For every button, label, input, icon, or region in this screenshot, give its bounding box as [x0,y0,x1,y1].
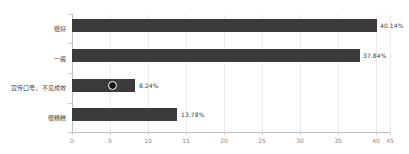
x-axis-tick [390,132,391,135]
x-axis-tick [110,132,111,135]
x-tick-label-7: 35 [327,136,349,145]
x-tick-label-3: 15 [175,136,197,145]
bar-value-0: 40.14% [380,19,403,32]
x-axis-tick [148,132,149,135]
x-tick-label-1: 5 [99,136,121,145]
x-tick-label-5: 25 [251,136,273,145]
bar-0[interactable] [72,19,377,32]
x-axis-tick [376,132,377,135]
bar-value-1: 37.84% [363,49,386,62]
x-axis-tick [262,132,263,135]
y-axis-tick [68,14,72,15]
category-label-2: 宣传口号，不见成效 [0,81,66,94]
category-label-1: 一般 [0,52,66,65]
x-tick-label-2: 10 [137,136,159,145]
x-axis-tick [186,132,187,135]
bar-value-3: 13.78% [181,108,204,121]
x-tick-label-0: 0 [61,136,83,145]
y-axis-tick [68,73,72,74]
bar-chart: 很好 一般 宣传口号，不见成效 很糟糕 40.14% 37.84% 8.24% … [0,0,409,154]
pointer-marker-icon [108,81,117,90]
category-label-3: 很糟糕 [0,111,66,124]
category-label-0: 很好 [0,22,66,35]
x-axis-line [72,132,390,133]
bar-value-2: 8.24% [139,79,159,92]
x-tick-label-9: 45 [379,136,401,145]
y-axis-tick [68,43,72,44]
x-tick-label-6: 30 [289,136,311,145]
bar-2[interactable] [72,79,135,92]
bar-1[interactable] [72,49,360,62]
y-axis-tick [68,103,72,104]
x-tick-label-4: 20 [213,136,235,145]
x-axis-tick [300,132,301,135]
x-axis-tick [224,132,225,135]
x-axis-tick [72,132,73,135]
bar-3[interactable] [72,108,177,121]
x-axis-tick [338,132,339,135]
